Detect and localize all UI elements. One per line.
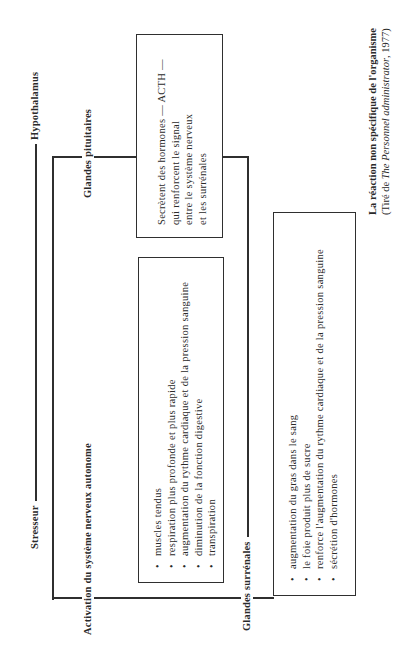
adrenal-box: augmentation du gras dans le sang le foi… — [273, 212, 356, 596]
bracket-pituitary-connector — [52, 156, 137, 158]
list-item: augmentation du rythme cardiaque et de l… — [178, 258, 192, 568]
pituitary-line: Secrètent des hormones — ACTH — — [155, 35, 169, 225]
caption-source-title: The Personnel administrator — [380, 58, 391, 179]
pituitary-box-text: Secrètent des hormones — ACTH — qui renf… — [155, 35, 209, 225]
caption-source-suffix: , 1977) — [380, 28, 391, 58]
stressor-label: Stresseur — [29, 501, 41, 553]
caption-source: (Tiré de The Personnel administrator, 19… — [379, 28, 392, 215]
autonomic-list: muscles tendus respiration plus profonde… — [151, 258, 219, 568]
pituitary-line: qui renforcent le signal — [169, 35, 183, 225]
list-item: respiration plus profonde et plus rapide — [165, 258, 179, 568]
adrenal-label: Glandes surrénales — [241, 537, 253, 635]
autonomic-box: muscles tendus respiration plus profonde… — [138, 257, 224, 583]
rotated-figure: Stresseur Hypothalamus Glandes pituitair… — [0, 0, 417, 649]
list-item: augmentation du gras dans le sang — [286, 213, 300, 581]
list-item: renforce l'augmentation du rythme cardia… — [313, 213, 327, 581]
list-item: muscles tendus — [151, 258, 165, 568]
caption-source-prefix: (Tiré de — [380, 179, 391, 215]
stressor-hypothalamus-line — [35, 139, 37, 539]
list-item: diminution de la fonction digestive — [192, 258, 206, 568]
adrenal-list: augmentation du gras dans le sang le foi… — [286, 213, 340, 581]
list-item: le foie produit plus de sucre — [300, 213, 314, 581]
list-item: transpiration — [205, 258, 219, 568]
autonomic-label: Activation du système nerveux autonome — [82, 439, 94, 639]
figure-caption: La réaction non spécifique de l'organism… — [366, 28, 392, 215]
hypothalamus-label: Hypothalamus — [29, 68, 41, 144]
pituitary-line: entre le système nerveux — [182, 35, 196, 225]
bracket-main-line — [52, 156, 54, 600]
pituitary-box: Secrètent des hormones — ACTH — qui renf… — [136, 34, 223, 238]
pituitary-to-adrenal-connector — [222, 156, 249, 158]
caption-title: La réaction non spécifique de l'organism… — [366, 28, 379, 215]
pituitary-line: et les surrénales — [196, 35, 210, 225]
list-item: sécrétion d'hormones — [327, 213, 341, 581]
pituitary-label: Glandes pituitaires — [82, 105, 94, 202]
adrenal-vertical-line — [247, 156, 249, 537]
